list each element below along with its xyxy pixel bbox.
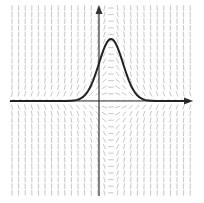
- slope-segment: [136, 111, 138, 116]
- slope-segment: [170, 78, 171, 83]
- slope-segment: [103, 131, 106, 136]
- slope-segment: [131, 25, 132, 30]
- slope-segment: [58, 111, 59, 116]
- slope-segment: [103, 38, 105, 43]
- slope-segment: [116, 58, 119, 63]
- slope-segment: [51, 124, 52, 129]
- slope-segment: [77, 78, 78, 83]
- slope-segment: [117, 19, 118, 24]
- slope-segment: [97, 177, 98, 182]
- slope-segment: [78, 131, 79, 136]
- slope-segment: [102, 112, 107, 115]
- slope-segment: [116, 118, 120, 122]
- slope-segment: [129, 105, 133, 109]
- slope-segment: [71, 71, 72, 76]
- slope-segment: [183, 104, 185, 109]
- slope-segment: [57, 105, 59, 110]
- slope-segment: [156, 105, 159, 110]
- slope-segment: [137, 38, 138, 43]
- slope-segment: [44, 104, 46, 109]
- slope-segment: [91, 65, 92, 70]
- slope-segment: [143, 118, 144, 123]
- slope-segment: [144, 137, 145, 142]
- slope-segment: [131, 164, 132, 169]
- slope-segment: [170, 91, 172, 96]
- slope-segment: [104, 5, 105, 10]
- slope-segment: [177, 117, 178, 122]
- slope-segment: [137, 150, 138, 155]
- slope-segment: [44, 91, 46, 96]
- slope-segment: [115, 106, 120, 107]
- slope-segment: [64, 85, 65, 90]
- slope-segment: [124, 177, 125, 182]
- slope-segment: [78, 58, 79, 63]
- slope-segment: [83, 105, 87, 109]
- slope-segment: [64, 78, 65, 83]
- slope-segment: [129, 111, 132, 116]
- slope-segment: [97, 137, 98, 142]
- slope-segment: [150, 65, 151, 70]
- slope-segment: [137, 144, 138, 149]
- slope-segment: [143, 91, 146, 96]
- slope-segment: [71, 85, 72, 90]
- slope-segment: [117, 38, 119, 43]
- slope-segment: [25, 91, 26, 96]
- slope-segment: [117, 151, 119, 156]
- slope-segment: [12, 84, 13, 89]
- slope-segment: [102, 118, 106, 122]
- slope-segment: [38, 84, 39, 89]
- slope-segment: [124, 151, 125, 156]
- slope-segment: [170, 124, 171, 129]
- slope-segment: [103, 151, 105, 156]
- slope-segment: [102, 106, 107, 107]
- slope-segment: [45, 111, 46, 116]
- slope-segment: [157, 65, 158, 70]
- slope-segment: [115, 86, 120, 89]
- slope-segment: [24, 104, 25, 109]
- slope-segment: [124, 45, 125, 50]
- slope-segment: [137, 45, 138, 50]
- slope-segment: [116, 79, 120, 83]
- slope-segment: [58, 71, 59, 76]
- slope-segment: [11, 104, 12, 109]
- slope-segment: [58, 124, 59, 129]
- slope-segment: [77, 111, 79, 116]
- slope-segment: [142, 105, 145, 109]
- slope-segment: [150, 124, 151, 129]
- slope-segment: [97, 151, 98, 156]
- slope-segment: [64, 71, 65, 76]
- slope-segment: [104, 184, 105, 189]
- slope-segment: [170, 111, 171, 116]
- slope-segment: [91, 144, 92, 149]
- slope-segment: [97, 32, 98, 37]
- slope-segment: [164, 124, 165, 129]
- slope-segment: [130, 45, 131, 50]
- slope-segment: [124, 170, 125, 175]
- slope-segment: [91, 32, 92, 37]
- slope-segment: [97, 38, 98, 43]
- slope-segment: [144, 58, 145, 63]
- slope-segment: [90, 111, 93, 116]
- slope-segment: [116, 131, 119, 136]
- slope-segment: [90, 124, 92, 129]
- slope-segment: [130, 118, 132, 123]
- slope-segment: [137, 51, 138, 56]
- slope-segment: [115, 93, 120, 95]
- slope-segment: [150, 111, 152, 116]
- slope-segment: [116, 138, 119, 143]
- slope-segment: [130, 124, 132, 129]
- slope-segment: [124, 190, 125, 195]
- slope-segment: [130, 131, 131, 136]
- slope-segment: [190, 111, 191, 116]
- slope-segment: [149, 105, 152, 110]
- slope-segment: [51, 111, 52, 116]
- slope-segment: [38, 78, 39, 83]
- slope-segment: [144, 65, 145, 70]
- slope-segment: [156, 91, 158, 96]
- slope-segment: [84, 118, 86, 123]
- slope-segment: [70, 105, 73, 110]
- slope-segment: [117, 190, 118, 195]
- slope-segment: [76, 105, 79, 109]
- slope-segment: [102, 79, 106, 83]
- slope-segment: [58, 117, 59, 122]
